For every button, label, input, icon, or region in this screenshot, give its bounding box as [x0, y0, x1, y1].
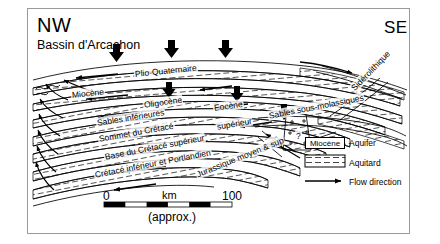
unit-label-fault_query: ? — [295, 131, 302, 141]
scale-start-label: 0 — [103, 189, 110, 203]
scale-unit-label: km — [162, 189, 177, 201]
orientation-label-se: SE — [384, 18, 408, 38]
recharge-arrow — [164, 40, 179, 58]
legend-aquifer-label: Aquifer — [349, 138, 376, 148]
legend-graphics — [305, 155, 345, 181]
orientation-label-nw: NW — [37, 14, 71, 37]
scale-bar — [104, 202, 232, 207]
scale-end-label: 100 — [222, 189, 242, 203]
legend-flow-direction-label: Flow direction — [349, 177, 401, 187]
location-label: Bassin d'Arcachon — [37, 38, 140, 52]
legend-aquifer-swatch: Miocène — [305, 137, 345, 149]
recharge-arrow — [218, 40, 233, 58]
scale-note-label: (approx.) — [148, 210, 196, 224]
figure-root: NW SE Bassin d'Arcachon Plio-Quaternaire… — [0, 0, 440, 244]
legend-aquitard-label: Aquitard — [349, 158, 381, 168]
